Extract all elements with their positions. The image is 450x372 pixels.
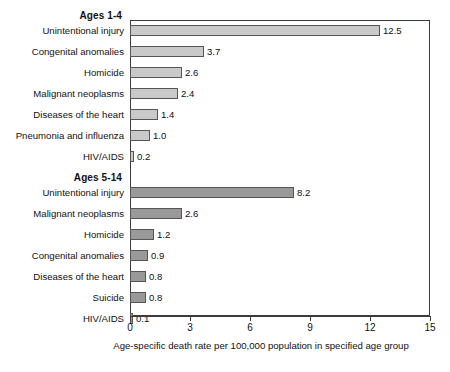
bar-row: Homicide1.2 — [0, 228, 450, 241]
bar-row: Diseases of the heart0.8 — [0, 270, 450, 283]
bar-value-label: 0.2 — [137, 150, 150, 163]
bar-value-label: 12.5 — [383, 24, 402, 37]
x-axis-tick — [430, 316, 431, 321]
bar-row: Unintentional injury8.2 — [0, 186, 450, 199]
bar-row: Homicide2.6 — [0, 66, 450, 79]
bar-value-label: 2.4 — [181, 87, 194, 100]
bar — [130, 208, 182, 219]
bar-value-label: 0.8 — [149, 291, 162, 304]
bar-category-label: Unintentional injury — [0, 186, 124, 199]
bar — [130, 130, 150, 141]
bar-value-label: 8.2 — [297, 186, 310, 199]
bar-category-label: Homicide — [0, 66, 124, 79]
bar-value-label: 3.7 — [207, 45, 220, 58]
bar-category-label: Malignant neoplasms — [0, 87, 124, 100]
bar-row: Suicide0.8 — [0, 291, 450, 304]
x-axis-tick-label: 12 — [355, 322, 385, 334]
x-axis-tick — [130, 316, 131, 321]
bar-value-label: 1.0 — [153, 129, 166, 142]
bar — [130, 151, 134, 162]
bar-row: Diseases of the heart1.4 — [0, 108, 450, 121]
bar-category-label: Malignant neoplasms — [0, 207, 124, 220]
bar-value-label: 2.6 — [185, 66, 198, 79]
bar-value-label: 1.4 — [161, 108, 174, 121]
bar — [130, 271, 146, 282]
bar-row: Congenital anomalies3.7 — [0, 45, 450, 58]
bar-value-label: 0.8 — [149, 270, 162, 283]
x-axis-line — [130, 316, 430, 317]
x-axis-tick-label: 0 — [115, 322, 145, 334]
bar-category-label: Suicide — [0, 291, 124, 304]
x-axis-tick-label: 15 — [415, 322, 445, 334]
x-axis-tick-label: 9 — [295, 322, 325, 334]
bar — [130, 67, 182, 78]
bar-category-label: HIV/AIDS — [0, 312, 124, 325]
x-axis-tick-label: 6 — [235, 322, 265, 334]
bar — [130, 109, 158, 120]
group-header-ages-1-4: Ages 1-4 — [0, 10, 122, 21]
bar-row: Malignant neoplasms2.4 — [0, 87, 450, 100]
bar — [130, 187, 294, 198]
bar — [130, 88, 178, 99]
bar-category-label: Diseases of the heart — [0, 270, 124, 283]
bar-row: Congenital anomalies0.9 — [0, 249, 450, 262]
bar — [130, 229, 154, 240]
bar-category-label: Homicide — [0, 228, 124, 241]
bar-category-label: Congenital anomalies — [0, 45, 124, 58]
bar-row: Pneumonia and influenza1.0 — [0, 129, 450, 142]
bar-value-label: 0.9 — [151, 249, 164, 262]
bar — [130, 46, 204, 57]
bar-value-label: 1.2 — [157, 228, 170, 241]
bar-category-label: Unintentional injury — [0, 24, 124, 37]
x-axis-tick — [370, 316, 371, 321]
x-axis-tick — [310, 316, 311, 321]
bar — [130, 250, 148, 261]
bar-category-label: Congenital anomalies — [0, 249, 124, 262]
bar-category-label: HIV/AIDS — [0, 150, 124, 163]
bar — [130, 292, 146, 303]
x-axis-tick — [250, 316, 251, 321]
bar — [130, 25, 380, 36]
x-axis-title: Age-specific death rate per 100,000 popu… — [0, 340, 450, 351]
bar-category-label: Diseases of the heart — [0, 108, 124, 121]
bar-row: Malignant neoplasms2.6 — [0, 207, 450, 220]
group-header-ages-5-14: Ages 5-14 — [0, 172, 122, 183]
bar-row: Unintentional injury12.5 — [0, 24, 450, 37]
x-axis-tick — [190, 316, 191, 321]
bar-category-label: Pneumonia and influenza — [0, 129, 124, 142]
x-axis-tick-label: 3 — [175, 322, 205, 334]
bar-chart: Ages 1-4 Ages 5-14 Unintentional injury1… — [0, 0, 450, 372]
bar-row: HIV/AIDS0.2 — [0, 150, 450, 163]
bar-value-label: 2.6 — [185, 207, 198, 220]
